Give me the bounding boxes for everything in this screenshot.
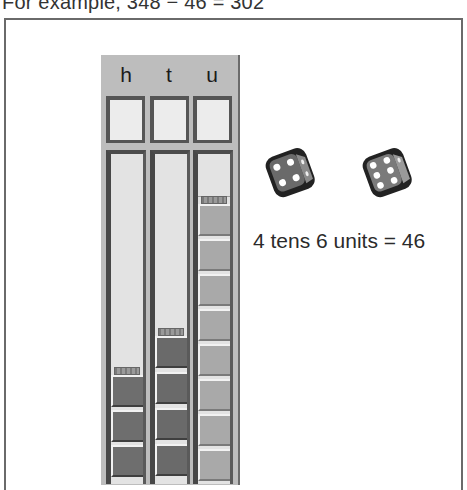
label-units: u bbox=[192, 63, 232, 87]
hundreds-block bbox=[111, 445, 143, 477]
tube-units bbox=[193, 150, 233, 484]
stack-cap bbox=[114, 367, 140, 375]
units-block bbox=[198, 204, 230, 236]
label-hundreds: h bbox=[106, 63, 146, 87]
units-block bbox=[198, 274, 230, 306]
slot-hundreds bbox=[106, 96, 145, 143]
units-block bbox=[198, 239, 230, 271]
tube-tens bbox=[150, 150, 190, 484]
stack-cap bbox=[158, 328, 184, 336]
label-tens: t bbox=[149, 63, 189, 87]
tube-hundreds bbox=[106, 150, 146, 484]
units-block bbox=[198, 309, 230, 341]
stack-cap bbox=[201, 196, 227, 204]
units-block bbox=[198, 449, 230, 481]
tens-block bbox=[155, 408, 187, 440]
tens-block bbox=[155, 336, 187, 368]
example-caption: For example, 348 − 46 = 302 bbox=[2, 0, 264, 14]
units-block bbox=[198, 344, 230, 376]
slot-units bbox=[193, 96, 232, 143]
hundreds-block bbox=[111, 375, 143, 407]
die-six-icon bbox=[360, 143, 418, 201]
tens-block bbox=[155, 372, 187, 404]
slot-tens bbox=[150, 96, 189, 143]
tens-block bbox=[155, 444, 187, 476]
place-value-expression: 4 tens 6 units = 46 bbox=[253, 229, 425, 253]
tube-empty-space bbox=[198, 154, 230, 197]
hundreds-block bbox=[111, 410, 143, 442]
die-four-icon bbox=[263, 143, 321, 201]
units-block bbox=[198, 379, 230, 411]
units-block bbox=[198, 414, 230, 446]
